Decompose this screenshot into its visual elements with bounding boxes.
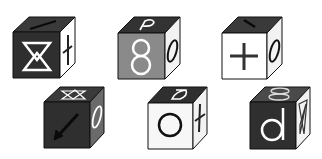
cube-6-front	[250, 102, 296, 149]
cube-puzzle	[0, 0, 322, 159]
cube-4	[44, 87, 104, 148]
cube-5	[148, 87, 207, 149]
cube-2	[118, 17, 180, 79]
cube-5-front	[148, 103, 193, 149]
cube-1	[13, 17, 75, 78]
cube-6	[250, 87, 310, 149]
cube-3	[222, 17, 282, 79]
